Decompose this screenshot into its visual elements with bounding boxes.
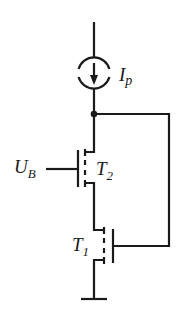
circuit-diagram: Ip UB T2 T1 — [0, 0, 182, 316]
t1-source-wire — [94, 260, 104, 299]
transistor-t1-label: T1 — [72, 234, 89, 259]
arrow-head-icon — [90, 75, 98, 85]
current-source-label: Ip — [118, 64, 132, 88]
current-source-symbol — [79, 57, 110, 88]
feedback-wire — [94, 114, 169, 246]
t2-drain-wire — [85, 114, 94, 152]
t2-source-wire — [85, 183, 104, 230]
junction-node — [91, 111, 98, 118]
bias-voltage-label: UB — [14, 156, 36, 181]
transistor-t2-label: T2 — [96, 158, 114, 183]
